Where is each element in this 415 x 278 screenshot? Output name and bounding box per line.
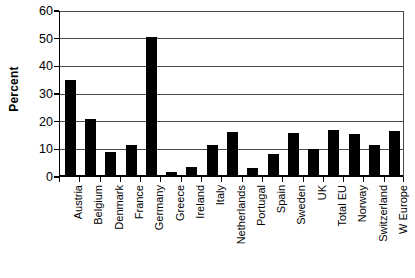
x-tick-label-total-eu: Total EU	[337, 139, 348, 183]
x-tick-label-greece: Greece	[175, 145, 186, 183]
y-tick-label-50: 50	[39, 32, 53, 45]
x-tick-label-uk: UK	[317, 166, 328, 183]
x-axis-tick-labels: AustriaBelgiumDenmarkFranceGermanyGreece…	[59, 183, 404, 278]
x-tick-label-norway: Norway	[357, 144, 368, 183]
x-tick-label-switzerland: Switzerland	[378, 124, 389, 183]
x-tick-label-italy: Italy	[215, 161, 226, 183]
x-tick-mark-0	[59, 177, 60, 182]
x-tick-label-denmark: Denmark	[114, 136, 125, 183]
x-tick-label-austria: Austria	[73, 147, 84, 183]
y-tick-label-30: 30	[39, 88, 53, 101]
x-tick-label-belgium: Belgium	[93, 141, 104, 183]
y-axis-tick-labels: 0102030405060	[26, 11, 53, 177]
x-tick-label-germany: Germany	[154, 136, 165, 183]
x-tick-label-france: France	[134, 147, 145, 183]
x-tick-label-w-europe: W Europe	[398, 132, 409, 183]
x-tick-label-spain: Spain	[276, 153, 287, 183]
y-tick-label-40: 40	[39, 60, 53, 73]
bar-chart: Percent 0102030405060 AustriaBelgiumDenm…	[0, 0, 415, 278]
y-axis-title: Percent	[0, 0, 28, 178]
y-tick-label-0: 0	[46, 171, 53, 184]
y-tick-label-20: 20	[39, 115, 53, 128]
x-tick-label-netherlands: Netherlands	[236, 122, 247, 183]
y-tick-label-60: 60	[39, 5, 53, 18]
bars-layer	[60, 11, 403, 177]
x-tick-label-ireland: Ireland	[195, 147, 206, 183]
x-tick-label-sweden: Sweden	[296, 141, 307, 183]
y-axis-title-text: Percent	[7, 66, 21, 111]
x-axis-ticks	[59, 177, 404, 182]
y-tick-label-10: 10	[39, 143, 53, 156]
x-tick-label-portugal: Portugal	[256, 140, 267, 183]
plot-area	[59, 11, 404, 177]
